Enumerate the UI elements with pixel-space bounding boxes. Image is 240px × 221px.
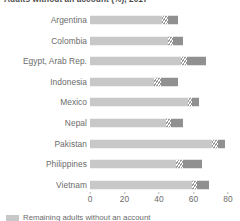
- chart-row: Philippines: [0, 154, 240, 174]
- bar-segment-solid-dark: [197, 180, 209, 189]
- category-label: Nepal: [65, 118, 87, 128]
- bar-segment-solid-light: [90, 180, 192, 189]
- stacked-bar: [90, 57, 206, 66]
- category-label: Philippines: [46, 159, 87, 169]
- stacked-bar: [90, 139, 225, 148]
- chart-row: Mexico: [0, 92, 240, 112]
- plot-area: ArgentinaColombiaEgypt, Arab Rep.Indones…: [0, 10, 240, 195]
- bar-segment-solid-light: [90, 57, 181, 66]
- bar-segment-solid-light: [90, 36, 168, 45]
- x-axis-tick: 20: [120, 192, 129, 204]
- category-label: Egypt, Arab Rep.: [23, 56, 87, 66]
- stacked-bar: [90, 160, 202, 169]
- chart-legend: Remaining adults without an account: [6, 214, 240, 221]
- bar-segment-solid-light: [90, 77, 154, 86]
- stacked-bar: [90, 77, 178, 86]
- chart-row: Pakistan: [0, 133, 240, 153]
- stacked-bar: [90, 118, 183, 127]
- category-label: Pakistan: [54, 139, 87, 149]
- chart-row: Argentina: [0, 10, 240, 30]
- bar-segment-solid-dark: [192, 98, 199, 107]
- chart-figure: Adults without an account (%), 2017 Arge…: [0, 0, 240, 221]
- x-axis-tick-label: 40: [154, 195, 163, 204]
- bar-segment-solid-dark: [187, 57, 206, 66]
- x-axis-tick-label: 20: [120, 195, 129, 204]
- category-label: Colombia: [51, 36, 87, 46]
- bar-segment-solid-dark: [168, 16, 178, 25]
- chart-row: Nepal: [0, 113, 240, 133]
- x-axis: 020406080: [0, 192, 240, 206]
- chart-title: Adults without an account (%), 2017: [4, 0, 148, 4]
- x-axis-tick: 60: [189, 192, 198, 204]
- stacked-bar: [90, 98, 199, 107]
- legend-swatch: [6, 215, 19, 221]
- bar-segment-solid-light: [90, 160, 176, 169]
- bar-segment-solid-light: [90, 16, 162, 25]
- x-axis-tick: 0: [88, 192, 93, 204]
- bar-segment-solid-light: [90, 118, 166, 127]
- stacked-bar: [90, 36, 183, 45]
- x-axis-tick-label: 80: [223, 195, 232, 204]
- category-label: Argentina: [51, 15, 87, 25]
- stacked-bar: [90, 180, 209, 189]
- bar-segment-solid-dark: [183, 160, 202, 169]
- bar-segment-solid-dark: [173, 36, 183, 45]
- bar-segment-solid-dark: [161, 77, 178, 86]
- x-axis-tick: 40: [154, 192, 163, 204]
- bar-segment-solid-light: [90, 98, 188, 107]
- bar-segment-solid-light: [90, 139, 212, 148]
- x-axis-tick: 80: [223, 192, 232, 204]
- category-label: Vietnam: [56, 180, 87, 190]
- legend-label: Remaining adults without an account: [23, 214, 150, 221]
- x-axis-tick-label: 60: [189, 195, 198, 204]
- category-label: Mexico: [60, 97, 87, 107]
- stacked-bar: [90, 16, 178, 25]
- bar-segment-hatched: [154, 77, 161, 86]
- category-label: Indonesia: [50, 77, 87, 87]
- bar-segment-solid-dark: [171, 118, 183, 127]
- bar-segment-solid-dark: [218, 139, 225, 148]
- chart-row: Egypt, Arab Rep.: [0, 51, 240, 71]
- chart-row: Indonesia: [0, 72, 240, 92]
- x-axis-tick-label: 0: [88, 195, 93, 204]
- bar-segment-hatched: [176, 160, 183, 169]
- chart-row: Colombia: [0, 31, 240, 51]
